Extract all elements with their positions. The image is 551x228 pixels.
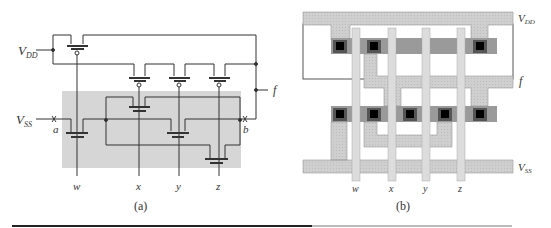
schematic-panel (36, 35, 268, 176)
vdd-label: VDD (18, 43, 38, 60)
input-y-label: y (175, 180, 181, 192)
layout-input-x-label: x (388, 183, 394, 194)
node-b-label: b (243, 123, 249, 135)
node-a-label: a (53, 123, 59, 135)
poly-gate-x (388, 28, 396, 181)
bottom-rule (12, 225, 312, 227)
internal-metal (364, 122, 452, 147)
layout-f-label: f (519, 74, 524, 88)
input-x-label: x (135, 180, 141, 192)
vss-label: VSS (16, 112, 32, 129)
input-w-label: w (73, 180, 81, 192)
poly-gate-z (457, 28, 465, 181)
layout-vdd-label: VDD (518, 12, 535, 26)
poly-gate-w (352, 28, 360, 181)
caption-a: (a) (134, 199, 147, 213)
figure-canvas: VDD VSS a b f w x y z (a) (0, 0, 551, 228)
input-z-label: z (215, 180, 221, 192)
layout-vss-label: VSS (518, 161, 532, 175)
poly-gate-y (422, 28, 430, 181)
layout-input-y-label: y (422, 183, 428, 194)
shaded-nmos-region (62, 91, 241, 168)
caption-b: (b) (396, 199, 410, 213)
layout-input-z-label: z (457, 183, 462, 194)
layout-panel (303, 12, 513, 181)
output-f-label: f (273, 83, 278, 97)
vss-rail (303, 122, 513, 173)
layout-input-w-label: w (352, 183, 359, 194)
